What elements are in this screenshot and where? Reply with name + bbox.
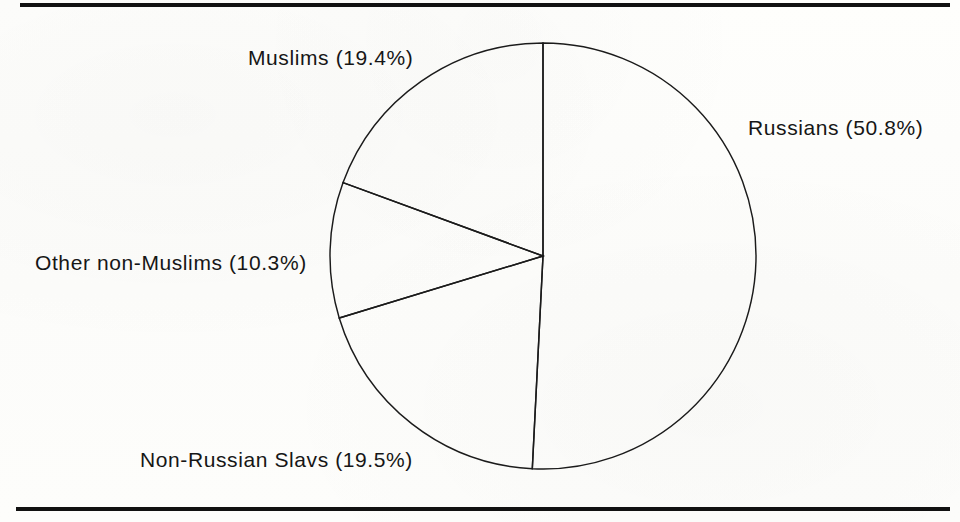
pie-label-muslims: Muslims (19.4%)	[248, 47, 413, 68]
bottom-horizontal-rule	[16, 507, 950, 511]
pie-slice-non-russian-slavs	[339, 256, 543, 469]
pie-slice-russians	[532, 43, 756, 469]
pie-label-russians: Russians (50.8%)	[748, 117, 923, 138]
pie-slice-group	[330, 43, 756, 469]
pie-label-other-non-muslims: Other non-Muslims (10.3%)	[35, 252, 307, 273]
figure-page: Russians (50.8%) Non-Russian Slavs (19.5…	[0, 0, 960, 522]
pie-slice-other-non-muslims	[330, 183, 543, 318]
pie-slice-muslims	[343, 43, 543, 256]
pie-label-non-russian-slavs: Non-Russian Slavs (19.5%)	[140, 449, 413, 470]
